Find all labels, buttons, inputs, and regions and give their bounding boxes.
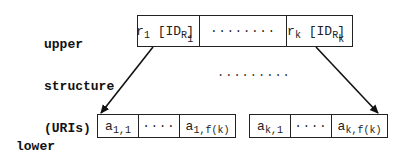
pointer-arrows bbox=[0, 0, 407, 160]
arrow-rk-to-ak bbox=[316, 47, 378, 113]
arrow-r1-to-a1 bbox=[101, 47, 153, 113]
